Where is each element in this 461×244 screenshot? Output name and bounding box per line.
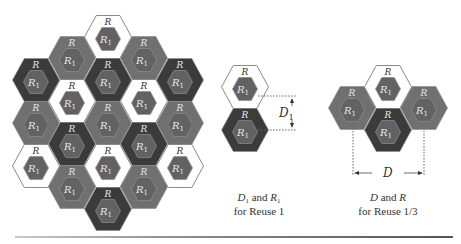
outer-radius-label: R — [420, 88, 428, 98]
outer-radius-label: R — [140, 38, 148, 48]
reuse-one-third-caption: D and R for Reuse 1/3 — [358, 191, 418, 217]
frequency-reuse-diagram: RR1RR1RR1RR1RR1RR1RR1RR1RR1RR1RR1RR1RR1R… — [0, 0, 461, 244]
outer-radius-label: R — [68, 38, 76, 48]
bottom-rule-divider — [15, 236, 453, 238]
outer-radius-label: R — [241, 67, 249, 77]
reuse-cluster-19-cells: RR1RR1RR1RR1RR1RR1RR1RR1RR1RR1RR1RR1RR1R… — [13, 16, 204, 231]
d1-arrow-down-icon — [290, 123, 294, 128]
outer-radius-label: R — [68, 81, 76, 91]
d-arrow-right-icon — [418, 171, 423, 175]
outer-radius-label: R — [32, 146, 40, 156]
outer-radius-label: R — [68, 124, 76, 134]
d-arrow-left-icon — [354, 171, 359, 175]
d1-label: D1 — [278, 106, 294, 122]
reuse-1-caption-line1: D1 and R1 — [236, 191, 281, 205]
outer-radius-label: R — [176, 60, 184, 70]
outer-radius-label: R — [140, 124, 148, 134]
reuse-1-caption: D1 and R1 for Reuse 1 — [234, 191, 285, 217]
outer-radius-label: R — [384, 67, 392, 77]
outer-radius-label: R — [241, 110, 249, 120]
outer-radius-label: R — [104, 146, 112, 156]
d-label: D — [382, 166, 393, 180]
outer-radius-label: R — [104, 103, 112, 113]
outer-radius-label: R — [104, 189, 112, 199]
reuse-one-third-caption-line1: D and R — [369, 191, 406, 203]
reuse-one-third-diagram: RR1RR1RR1RR1 — [329, 66, 448, 152]
d1-arrow-up-icon — [290, 98, 294, 103]
outer-radius-label: R — [32, 60, 40, 70]
outer-radius-label: R — [176, 146, 184, 156]
outer-radius-label: R — [348, 88, 356, 98]
outer-radius-label: R — [32, 103, 40, 113]
outer-radius-label: R — [68, 167, 76, 177]
hex-cell-white: RR1 — [222, 66, 269, 109]
outer-radius-label: R — [104, 17, 112, 27]
reuse-one-third-caption-line2: for Reuse 1/3 — [358, 205, 418, 217]
outer-radius-label: R — [176, 103, 184, 113]
outer-radius-label: R — [104, 60, 112, 70]
reuse-1-diagram: RR1RR1 — [222, 66, 269, 152]
outer-radius-label: R — [140, 81, 148, 91]
outer-radius-label: R — [384, 110, 392, 120]
outer-radius-label: R — [140, 167, 148, 177]
reuse-1-caption-line2: for Reuse 1 — [234, 205, 285, 217]
